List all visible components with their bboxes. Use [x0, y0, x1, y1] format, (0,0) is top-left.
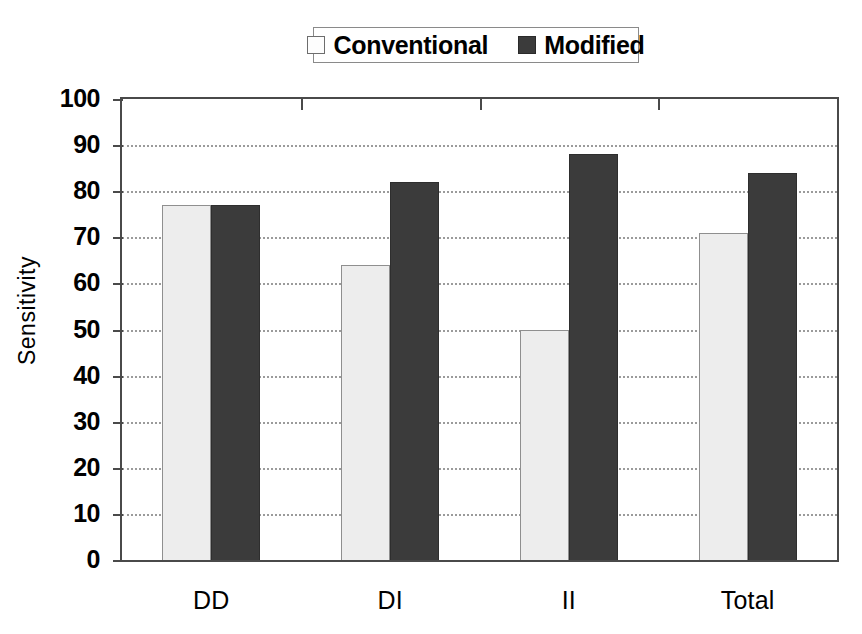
bar-di-conventional: [341, 265, 390, 560]
y-tick-label-80: 80: [30, 178, 100, 203]
bar-dd-modified: [211, 205, 260, 560]
y-tick-mark-40: [113, 376, 123, 378]
legend-entry-conventional: Conventional: [307, 33, 488, 58]
y-tick-label-70: 70: [30, 224, 100, 249]
y-tick-mark-20: [113, 468, 123, 470]
y-tick-label-10: 10: [30, 501, 100, 526]
y-tick-label-100: 100: [30, 86, 100, 111]
y-tick-mark-0: [113, 560, 123, 562]
x-tick-label-di: DI: [301, 588, 480, 613]
x-tick-label-dd: DD: [122, 588, 301, 613]
y-tick-label-40: 40: [30, 363, 100, 388]
chart-legend: Conventional Modified: [313, 27, 639, 63]
bar-di-modified: [390, 182, 439, 560]
y-tick-label-20: 20: [30, 455, 100, 480]
legend-swatch-modified-icon: [518, 36, 536, 54]
y-tick-mark-100: [113, 99, 123, 101]
x-tick-label-ii: II: [480, 588, 659, 613]
y-tick-mark-80: [113, 191, 123, 193]
legend-entry-modified: Modified: [518, 33, 644, 58]
y-tick-mark-30: [113, 422, 123, 424]
y-tick-label-0: 0: [30, 547, 100, 572]
bar-total-modified: [748, 173, 797, 560]
y-tick-mark-90: [113, 145, 123, 147]
y-tick-mark-60: [113, 283, 123, 285]
x-tick-label-total: Total: [658, 588, 837, 613]
bar-total-conventional: [699, 233, 748, 560]
chart-figure: Conventional Modified Sensitivity 010203…: [0, 0, 862, 634]
y-tick-mark-50: [113, 330, 123, 332]
plot-area: 0102030405060708090100DDDIIITotal: [120, 97, 839, 562]
y-tick-mark-70: [113, 237, 123, 239]
y-tick-label-30: 30: [30, 409, 100, 434]
gridline-y-90: [122, 145, 837, 147]
legend-swatch-conventional-icon: [307, 36, 325, 54]
bar-ii-conventional: [520, 330, 569, 561]
bar-dd-conventional: [162, 205, 211, 560]
y-tick-label-90: 90: [30, 132, 100, 157]
gridline-y-80: [122, 191, 837, 193]
x-tick-mark-II: [658, 99, 660, 110]
y-tick-mark-10: [113, 514, 123, 516]
legend-label-modified: Modified: [544, 33, 644, 58]
y-tick-label-50: 50: [30, 317, 100, 342]
legend-label-conventional: Conventional: [333, 33, 488, 58]
x-tick-mark-DI: [480, 99, 482, 110]
x-tick-mark-DD: [301, 99, 303, 110]
bar-ii-modified: [569, 154, 618, 560]
y-tick-label-60: 60: [30, 270, 100, 295]
